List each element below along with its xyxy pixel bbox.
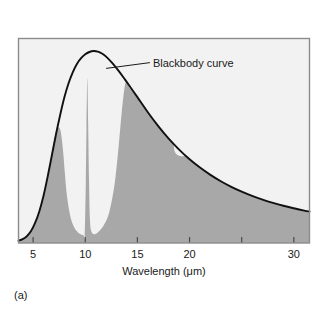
x-axis-tick-label: 15	[131, 248, 143, 260]
spectrum-chart: Blackbody curve 510152030 Wavelength (μm…	[0, 0, 324, 310]
x-axis-title: Wavelength (μm)	[122, 265, 206, 277]
x-axis-tick-label: 5	[30, 248, 36, 260]
x-axis-tick-label: 30	[288, 248, 300, 260]
x-axis-tick-label: 10	[79, 248, 91, 260]
panel-label: (a)	[14, 289, 27, 301]
blackbody-curve-label: Blackbody curve	[153, 57, 234, 69]
figure-panel: Blackbody curve 510152030 Wavelength (μm…	[0, 0, 324, 310]
x-axis-tick-label: 20	[183, 248, 195, 260]
